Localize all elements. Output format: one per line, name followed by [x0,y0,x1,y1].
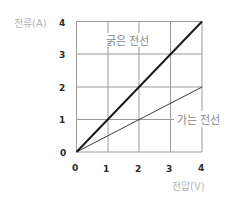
y-axis-title: 전류(A) [14,18,47,29]
thick-wire-label: 굵은 전선 [106,35,150,48]
x-axis-title: 전압(V) [172,180,205,192]
y-tick-2: 2 [59,83,65,93]
y-tick-1: 1 [59,115,65,125]
x-tick-4: 4 [198,163,204,173]
chart-svg: 굵은 전선 가는 전선 4 3 2 1 0 0 1 2 3 4 전류(A) 전압… [0,0,239,205]
voltage-current-chart: 굵은 전선 가는 전선 4 3 2 1 0 0 1 2 3 4 전류(A) 전압… [0,0,239,205]
x-tick-1: 1 [103,164,109,174]
y-tick-0: 0 [60,148,66,158]
y-tick-3: 3 [59,50,65,60]
x-tick-0: 0 [72,163,78,173]
thin-wire-label: 가는 전선 [177,114,221,127]
y-tick-4: 4 [59,18,65,28]
x-tick-2: 2 [135,164,141,174]
x-tick-3: 3 [166,164,172,174]
